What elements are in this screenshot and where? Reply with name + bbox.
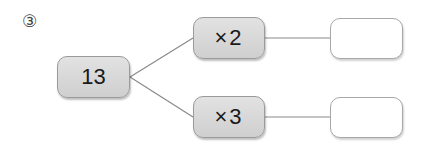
start-value: 13 — [81, 64, 105, 90]
operation-label-1: ×2 — [214, 25, 243, 51]
operation-box-1: ×2 — [193, 17, 265, 59]
operation-box-2: ×3 — [193, 96, 265, 138]
connector-start-to-op1 — [130, 38, 193, 77]
answer-box-2[interactable] — [330, 97, 403, 138]
operation-label-2: ×3 — [214, 104, 243, 130]
answer-box-1[interactable] — [330, 18, 403, 59]
connector-start-to-op2 — [130, 77, 193, 117]
start-value-box: 13 — [57, 56, 130, 98]
